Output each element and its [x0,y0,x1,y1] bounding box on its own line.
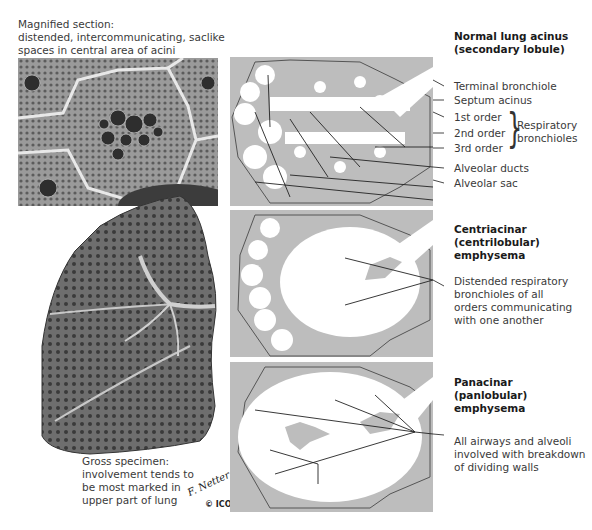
leader-lines [0,0,592,530]
